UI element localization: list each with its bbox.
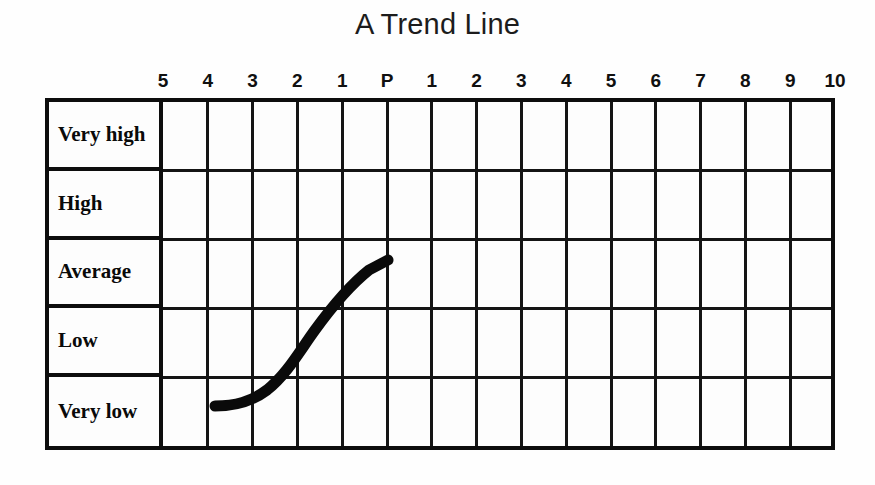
column-header-7: 2: [457, 70, 497, 92]
row-label-0: Very high: [49, 102, 163, 171]
column-header-row: 54321P12345678910: [0, 70, 875, 96]
column-header-9: 4: [546, 70, 586, 92]
row-label-4: Very low: [49, 377, 163, 446]
grid-vline-10: [610, 102, 613, 446]
grid-vline-9: [565, 102, 568, 446]
grid-vline-14: [789, 102, 792, 446]
column-header-12: 7: [681, 70, 721, 92]
grid-vline-3: [296, 102, 299, 446]
column-header-14: 9: [770, 70, 810, 92]
grid-hline-4: [163, 376, 831, 379]
column-header-5: P: [367, 70, 407, 92]
grid-cell-area: [163, 102, 831, 446]
column-header-1: 4: [188, 70, 228, 92]
grid-vline-5: [386, 102, 389, 446]
column-header-6: 1: [412, 70, 452, 92]
grid-vline-13: [744, 102, 747, 446]
column-header-8: 3: [501, 70, 541, 92]
trend-line-figure: A Trend Line 54321P12345678910 Very high…: [0, 0, 875, 485]
trend-grid: Very highHighAverageLowVery low: [45, 98, 835, 450]
column-header-3: 2: [277, 70, 317, 92]
grid-hline-2: [163, 238, 831, 241]
row-label-column: Very highHighAverageLowVery low: [49, 102, 163, 446]
grid-vline-2: [251, 102, 254, 446]
grid-vline-12: [699, 102, 702, 446]
grid-vline-7: [475, 102, 478, 446]
column-header-0: 5: [143, 70, 183, 92]
page-title: A Trend Line: [0, 6, 875, 42]
grid-hline-3: [163, 307, 831, 310]
column-header-15: 10: [815, 70, 855, 92]
grid-hline-1: [163, 169, 831, 172]
row-label-1: High: [49, 171, 163, 240]
column-header-4: 1: [322, 70, 362, 92]
column-header-2: 3: [233, 70, 273, 92]
grid-vline-8: [520, 102, 523, 446]
grid-vline-4: [341, 102, 344, 446]
row-label-2: Average: [49, 240, 163, 309]
row-label-3: Low: [49, 308, 163, 377]
grid-vline-11: [654, 102, 657, 446]
grid-vline-6: [430, 102, 433, 446]
column-header-13: 8: [725, 70, 765, 92]
grid-vline-1: [206, 102, 209, 446]
column-header-10: 5: [591, 70, 631, 92]
column-header-11: 6: [636, 70, 676, 92]
